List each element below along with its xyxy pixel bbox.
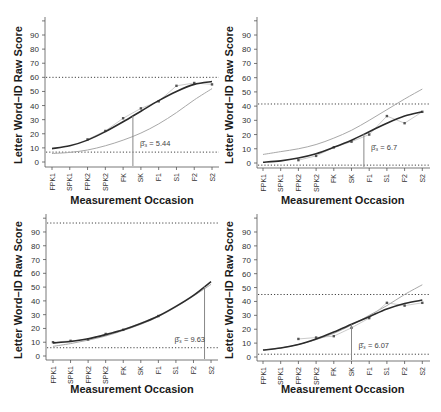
figure: 0102030405060708090FPK1SPK1FPK2SPK2FKSKF… — [0, 0, 441, 412]
y-axis-title: Letter Word–ID Raw Score — [12, 26, 24, 164]
y-tick-label: 50 — [242, 284, 251, 293]
y-tick-label: 0 — [247, 353, 252, 362]
beta3-annotation: β̂₃ = 6.7 — [371, 143, 397, 152]
x-tick-label: F1 — [155, 173, 162, 181]
x-axis-title: Measurement Occasion — [70, 383, 194, 395]
x-tick-label: SK — [348, 174, 355, 184]
y-tick-label: 60 — [30, 73, 39, 82]
x-tick-label: S1 — [173, 173, 180, 182]
y-tick-label: 30 — [242, 116, 251, 125]
y-tick-label: 90 — [30, 31, 39, 40]
x-tick-label: FPK2 — [84, 173, 91, 191]
x-axis-title: Measurement Occasion — [281, 194, 405, 206]
y-tick-label: 30 — [30, 116, 39, 125]
x-axis-title: Measurement Occasion — [70, 194, 194, 206]
x-tick-label: FPK2 — [85, 366, 92, 384]
y-tick-label: 50 — [30, 87, 39, 96]
x-tick-label: F2 — [191, 173, 198, 181]
x-tick-label: S2 — [209, 173, 216, 182]
x-tick-label: FK — [120, 366, 127, 375]
observed-point — [297, 338, 299, 340]
beta3-annotation: β̂₃ = 5.44 — [140, 139, 171, 148]
y-tick-label: 10 — [31, 338, 40, 347]
x-tick-label: FPK2 — [295, 367, 302, 385]
y-tick-label: 20 — [30, 130, 39, 139]
y-tick-label: 80 — [31, 242, 40, 251]
y-tick-label: 80 — [242, 242, 251, 251]
x-tick-label: SPK2 — [102, 366, 109, 384]
observed-point — [175, 85, 177, 87]
y-tick-label: 50 — [242, 88, 251, 97]
y-tick-label: 70 — [30, 59, 39, 68]
observed-point — [368, 133, 370, 135]
observed-trajectory — [53, 316, 158, 342]
x-tick-label: F2 — [190, 366, 197, 374]
beta3-annotation: β̂₃ = 9.63 — [175, 335, 206, 344]
x-tick-label: SPK2 — [313, 174, 320, 192]
y-tick-label: 60 — [242, 270, 251, 279]
x-tick-label: S1 — [383, 174, 390, 183]
observed-point — [403, 304, 405, 306]
observed-point — [333, 335, 335, 337]
observed-point — [140, 107, 142, 109]
y-tick-label: 10 — [30, 144, 39, 153]
x-tick-label: S2 — [419, 174, 426, 183]
panel-top-left: 0102030405060708090FPK1SPK1FPK2SPK2FKSKF… — [12, 17, 219, 206]
y-axis-title: Letter Word–ID Raw Score — [223, 26, 235, 164]
y-tick-label: 30 — [31, 311, 40, 320]
four-panel-growth-chart: 0102030405060708090FPK1SPK1FPK2SPK2FKSKF… — [0, 0, 441, 412]
x-tick-label: FK — [330, 174, 337, 183]
x-tick-label: SK — [348, 367, 355, 377]
y-tick-label: 90 — [242, 228, 251, 237]
x-tick-label: SPK2 — [102, 173, 109, 191]
y-tick-label: 80 — [30, 45, 39, 54]
y-tick-label: 90 — [242, 31, 251, 40]
y-tick-label: 0 — [36, 352, 41, 361]
x-tick-label: FPK1 — [260, 174, 267, 192]
y-tick-label: 20 — [242, 131, 251, 140]
x-tick-label: F1 — [366, 367, 373, 375]
x-tick-label: SPK1 — [66, 173, 73, 191]
x-tick-label: SPK1 — [277, 174, 284, 192]
observed-point — [421, 302, 423, 304]
y-tick-label: 40 — [242, 102, 251, 111]
x-tick-label: SK — [137, 173, 144, 183]
observed-point — [211, 83, 213, 85]
y-tick-label: 40 — [30, 102, 39, 111]
panel-bottom-left: 0102030405060708090FPK1SPK1FPK2SPK2FKSKF… — [12, 214, 218, 395]
y-tick-label: 90 — [31, 228, 40, 237]
x-tick-label: FPK2 — [295, 174, 302, 192]
y-axis-title: Letter Word–ID Raw Score — [223, 221, 235, 359]
beta3-annotation: β̂₃ = 6.07 — [359, 341, 390, 350]
x-tick-label: FK — [330, 367, 337, 376]
x-tick-label: S1 — [383, 367, 390, 376]
x-axis-title: Measurement Occasion — [281, 383, 405, 395]
y-tick-label: 60 — [31, 269, 40, 278]
y-tick-label: 10 — [242, 339, 251, 348]
individual-fitted-curve — [263, 300, 422, 350]
y-tick-label: 80 — [242, 45, 251, 54]
observed-point — [403, 122, 405, 124]
x-tick-label: FPK1 — [50, 366, 57, 384]
x-tick-label: S2 — [419, 367, 426, 376]
y-tick-label: 10 — [242, 145, 251, 154]
x-tick-label: SPK1 — [67, 366, 74, 384]
y-tick-label: 70 — [242, 59, 251, 68]
individual-fitted-curve — [263, 112, 422, 162]
x-tick-label: F2 — [401, 367, 408, 375]
x-tick-label: SK — [137, 366, 144, 376]
y-tick-label: 0 — [35, 158, 40, 167]
observed-point — [315, 155, 317, 157]
x-tick-label: S2 — [208, 366, 215, 375]
x-tick-label: F2 — [401, 174, 408, 182]
y-tick-label: 70 — [242, 256, 251, 265]
observed-point — [297, 159, 299, 161]
observed-point — [386, 302, 388, 304]
observed-point — [122, 117, 124, 119]
individual-fitted-curve — [53, 282, 211, 343]
y-tick-label: 20 — [31, 324, 40, 333]
y-tick-label: 20 — [242, 325, 251, 334]
x-tick-label: S1 — [172, 366, 179, 375]
y-tick-label: 30 — [242, 311, 251, 320]
y-tick-label: 60 — [242, 74, 251, 83]
